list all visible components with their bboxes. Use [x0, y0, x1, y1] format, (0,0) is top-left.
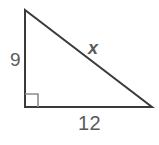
side-label-vertical-leg: 9 — [10, 50, 21, 69]
side-label-horizontal-leg: 12 — [78, 113, 101, 133]
side-label-hypotenuse: x — [88, 39, 98, 57]
right-angle-marker-icon — [25, 94, 38, 107]
triangle-outline — [25, 10, 152, 107]
right-triangle-diagram: 9 x 12 — [0, 0, 159, 145]
